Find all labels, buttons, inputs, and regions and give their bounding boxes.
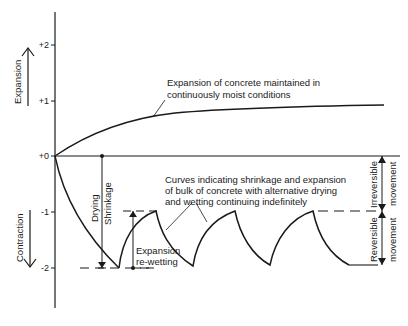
moist-label-line1: Expansion of concrete maintained in <box>167 77 320 88</box>
tick-plus1: +1 <box>39 96 49 106</box>
moisture-movement-diagram: +2 +1 +0 -1 -2 Expansion Contraction Exp… <box>0 0 408 326</box>
expansion-axis-label: Expansion <box>12 60 23 104</box>
rewetting-label: re-wetting <box>136 256 178 267</box>
irreversible-label: Irreversible <box>368 161 379 208</box>
expansion-label: Expansion <box>136 245 180 256</box>
tick-plus2: +2 <box>39 40 49 50</box>
curves-label-line1: Curves indicating shrinkage and expansio… <box>165 174 346 185</box>
drying-label: Drying <box>89 195 100 222</box>
reversible-label: Reversible <box>368 217 379 262</box>
shrinkage-label: Shrinkage <box>102 182 113 225</box>
tick-minus2: -2 <box>41 263 49 273</box>
tick-minus1: -1 <box>41 207 49 217</box>
curves-label-line3: and wetting continuing indefinitely <box>165 196 307 207</box>
irreversible-movement-label: movement <box>387 161 398 206</box>
contraction-axis-label: Contraction <box>14 213 25 262</box>
tick-zero: +0 <box>39 151 49 161</box>
reversible-movement-label: movement <box>387 217 398 262</box>
curves-label-line2: of bulk of concrete with alternative dry… <box>165 185 337 196</box>
moist-expansion-curve <box>55 105 384 156</box>
moist-label-line2: continuously moist conditions <box>167 89 291 100</box>
